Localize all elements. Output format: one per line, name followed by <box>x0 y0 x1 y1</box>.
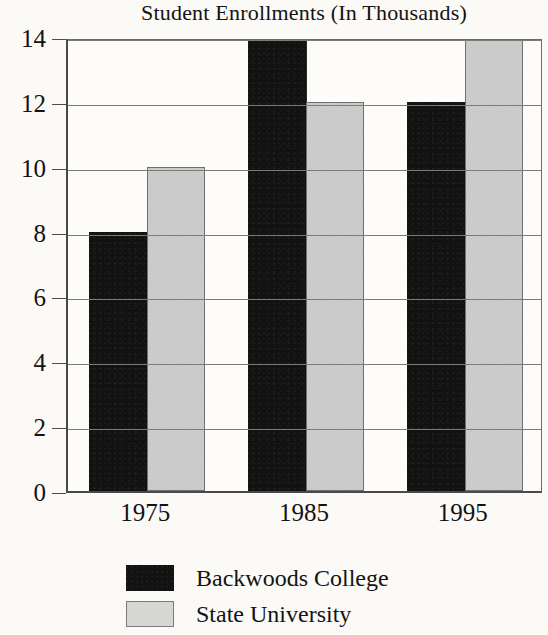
bar-1985-backwoods-college <box>248 39 307 491</box>
chart-title: Student Enrollments (In Thousands) <box>60 0 548 26</box>
y-axis-label: 12 <box>0 91 46 116</box>
x-axis-label-1995: 1995 <box>403 498 523 528</box>
x-axis-label-1975: 1975 <box>85 498 205 528</box>
legend-label-backwoods-college: Backwoods College <box>196 564 389 592</box>
bar-1995-state-university <box>465 39 523 491</box>
y-axis-tick <box>52 493 66 494</box>
bar-1985-state-university <box>306 102 364 491</box>
y-axis-label: 8 <box>0 221 46 246</box>
y-axis-label: 6 <box>0 285 46 310</box>
y-axis-label: 0 <box>0 480 46 505</box>
x-axis-label-1985: 1985 <box>244 498 364 528</box>
y-axis-tick <box>52 169 66 170</box>
legend-swatch-light-icon <box>126 601 174 627</box>
bar-1995-backwoods-college <box>407 102 466 491</box>
chart-legend: Backwoods College State University <box>126 560 456 632</box>
plot-area <box>66 39 542 493</box>
legend-item-backwoods-college: Backwoods College <box>126 560 456 596</box>
legend-item-state-university: State University <box>126 596 456 632</box>
bar-1975-state-university <box>147 167 205 491</box>
bar-1975-backwoods-college <box>89 232 148 491</box>
y-axis-tick <box>52 39 66 40</box>
y-axis-label: 10 <box>0 156 46 181</box>
y-axis-tick <box>52 298 66 299</box>
y-axis-tick <box>52 428 66 429</box>
legend-label-state-university: State University <box>196 600 351 628</box>
y-axis-label: 2 <box>0 415 46 440</box>
y-axis-tick <box>52 104 66 105</box>
y-axis-tick <box>52 234 66 235</box>
legend-swatch-dark-icon <box>126 565 174 591</box>
bar-chart: Student Enrollments (In Thousands) 02468… <box>0 0 548 635</box>
y-axis-label: 4 <box>0 350 46 375</box>
y-axis-label: 14 <box>0 26 46 51</box>
y-axis-tick <box>52 363 66 364</box>
